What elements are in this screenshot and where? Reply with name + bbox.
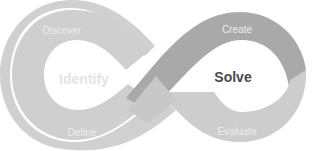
label-solve: Solve: [214, 69, 251, 85]
label-identify: Identify: [59, 71, 109, 87]
label-create: Create: [222, 24, 252, 35]
label-discover: Discover: [43, 25, 82, 36]
label-evaluate: Evaluate: [218, 126, 257, 137]
infinity-loop-graphic: [0, 0, 319, 151]
label-define: Define: [68, 127, 97, 138]
